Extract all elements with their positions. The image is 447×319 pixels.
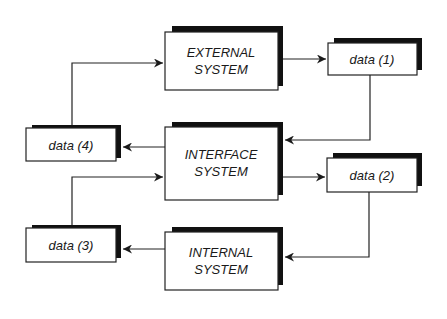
data-1-label: data (1): [350, 52, 395, 67]
internal-system-node: INTERNAL SYSTEM: [165, 227, 283, 290]
system-diagram: EXTERNAL SYSTEM INTERFACE SYSTEM INTERNA…: [0, 0, 447, 319]
data-3-label: data (3): [49, 238, 94, 253]
data-4-label: data (4): [49, 138, 94, 153]
interface-system-label-1: INTERFACE: [185, 147, 258, 162]
edge-data3-to-interface: [72, 177, 163, 225]
data-1-node: data (1): [328, 38, 422, 75]
interface-system-label-2: SYSTEM: [194, 164, 248, 179]
edge-data4-to-external: [72, 63, 163, 125]
data-4-node: data (4): [26, 125, 121, 161]
external-system-node: EXTERNAL SYSTEM: [165, 26, 283, 90]
edge-data1-to-interface: [285, 75, 370, 140]
data-2-node: data (2): [327, 153, 422, 192]
internal-system-label-1: INTERNAL: [189, 245, 253, 260]
data-2-label: data (2): [350, 168, 395, 183]
interface-system-node: INTERFACE SYSTEM: [165, 122, 283, 200]
internal-system-label-2: SYSTEM: [194, 262, 248, 277]
external-system-label-2: SYSTEM: [194, 62, 248, 77]
edge-data2-to-internal: [285, 192, 369, 257]
external-system-label-1: EXTERNAL: [187, 45, 256, 60]
data-3-node: data (3): [26, 225, 121, 262]
